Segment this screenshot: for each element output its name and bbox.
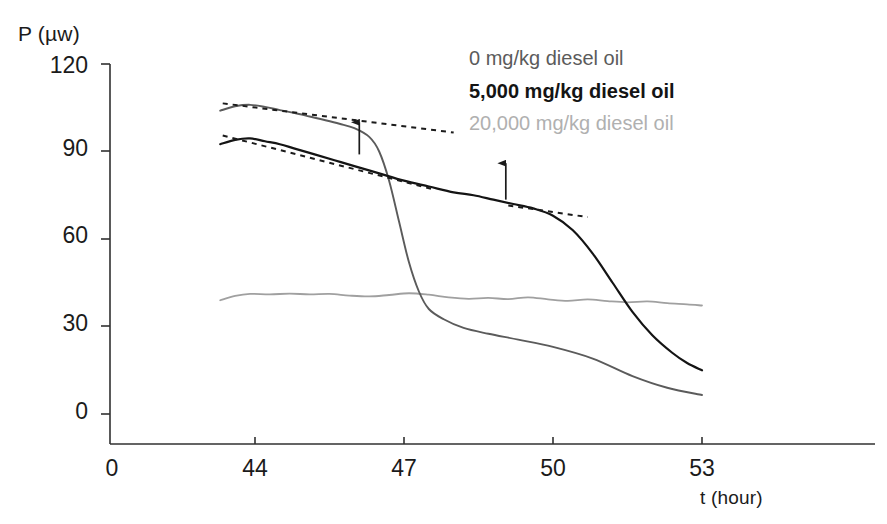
tangent-line-2 [508, 205, 587, 217]
plot-area [0, 0, 887, 524]
data-series-layer [220, 105, 702, 395]
chart-page: P (µw) t (hour) 120 90 60 30 0 0 44 47 5… [0, 0, 887, 524]
annotation-layer [223, 103, 588, 217]
series-line-20000-mgkg [220, 293, 702, 305]
x-axis-ticks [255, 437, 702, 444]
tangent-line-0 [223, 103, 454, 132]
series-line-5000-mgkg [220, 138, 702, 370]
y-axis-ticks [101, 64, 110, 414]
tangent-line-1 [223, 135, 434, 189]
